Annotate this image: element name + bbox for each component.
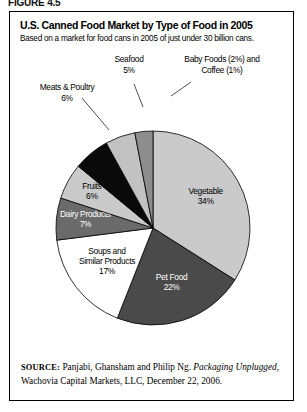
chart-title: U.S. Canned Food Market by Type of Food … bbox=[20, 19, 285, 31]
source-note: SOURCE: Panjabi, Ghansham and Philip Ng.… bbox=[21, 361, 283, 387]
slice-label-external: Seafood5% bbox=[114, 54, 144, 75]
label-leader-line bbox=[134, 84, 143, 107]
figure-header: U.S. Canned Food Market by Type of Food … bbox=[20, 19, 285, 44]
label-leader-line bbox=[82, 98, 109, 130]
pie-chart: Vegetable34%Pet Food22%Soups andSimilar … bbox=[10, 48, 292, 353]
pie-chart-svg: Vegetable34%Pet Food22%Soups andSimilar … bbox=[10, 48, 292, 353]
figure-container: FIGURE 4.5 U.S. Canned Food Market by Ty… bbox=[0, 0, 307, 412]
source-publication-title: Packaging Unplugged bbox=[193, 362, 276, 372]
label-leader-line bbox=[171, 82, 191, 96]
figure-frame: U.S. Canned Food Market by Type of Food … bbox=[9, 11, 294, 401]
source-label: SOURCE: bbox=[21, 363, 60, 372]
slice-label-external: Baby Foods (2%) andCoffee (1%) bbox=[184, 54, 260, 75]
slice-label-external: Meats & Poultry6% bbox=[40, 82, 96, 103]
figure-number: FIGURE 4.5 bbox=[8, 0, 60, 8]
source-text-before: Panjabi, Ghansham and Philip Ng. bbox=[60, 362, 193, 372]
chart-subtitle: Based on a market for food cans in 2005 … bbox=[20, 33, 285, 44]
